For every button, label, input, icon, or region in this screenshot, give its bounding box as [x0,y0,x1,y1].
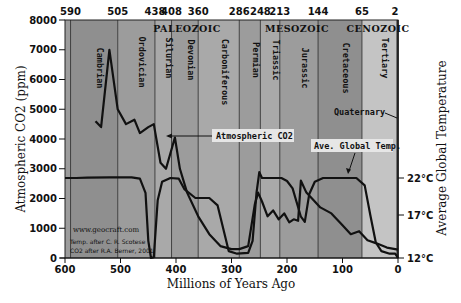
y-tick-label: 3000 [29,163,57,174]
y-tick-label: 1000 [29,223,57,234]
y-tick-label: 5000 [29,104,57,115]
y-axis-temperature: 12°C17°C22°C [398,20,433,264]
y2-tick-label: 22°C [407,173,433,184]
era-label-paleozoic: PALEOZOIC [153,23,221,34]
y2-tick-label: 17°C [407,210,433,221]
x-tick-label: 0 [395,264,402,275]
period-label-triassic: Triassic [271,40,281,81]
top-tick-label: 286 [229,6,250,17]
credit-co2-source: CO2 after R.A. Berner, 2001 [70,247,154,254]
y-tick-label: 6000 [29,74,57,85]
y-tick-label: 7000 [29,44,57,55]
quaternary-label: Quaternary [334,107,385,117]
period-label-cretaceous: Cretaceous [341,42,351,93]
co2-callout-text: Atmospheric CO2 [216,131,293,141]
x-tick-label: 200 [277,264,298,275]
y2-tick-label: 12°C [407,253,433,264]
period-label-ordovician: Ordovician [137,36,147,87]
top-tick-label: 248 [250,6,271,17]
top-tick-label: 408 [161,6,182,17]
y2-axis-title: Average Global Temperature [435,60,449,236]
era-label-cenozoic: CENOZOIC [347,23,410,34]
temperature-callout-text: Ave. Global Temp. [314,141,401,151]
y-axis-co2: 010002000300040005000600070008000 [29,15,65,264]
credit-website: www.geocraft.com [73,226,139,234]
band-ordovician [118,20,155,258]
x-tick-label: 100 [332,264,353,275]
period-label-carboniferous: Carboniferous [220,39,230,106]
y-tick-label: 4000 [29,134,57,145]
x-axis: 6005004003002001000 [55,258,402,275]
x-tick-label: 400 [166,264,187,275]
period-label-silurian: Silurian [164,38,174,79]
top-tick-label: 144 [308,6,329,17]
y-tick-label: 8000 [29,15,57,26]
x-axis-title: Millions of Years Ago [167,277,295,291]
top-tick-label: 213 [269,6,290,17]
period-label-cambrian: Cambrian [95,48,105,89]
x-tick-label: 300 [221,264,242,275]
top-tick-label: 65 [355,6,369,17]
top-tick-label: 505 [107,6,128,17]
y-tick-label: 0 [50,253,57,264]
y-axis-title: Atmospheric CO2 (ppm) [14,65,28,213]
era-labels: PALEOZOICMESOZOICCENOZOIC [153,23,409,34]
co2-temperature-chart: CambrianOrdovicianSilurianDevonianCarbon… [0,0,461,303]
x-tick-label: 600 [55,264,76,275]
y-tick-label: 2000 [29,193,57,204]
top-tick-label: 360 [188,6,209,17]
period-label-jurassic: Jurassic [300,48,310,89]
x-tick-label: 500 [110,264,131,275]
top-tick-label: 590 [60,6,81,17]
period-label-permian: Permian [251,42,261,78]
era-label-mesozoic: MESOZOIC [265,23,329,34]
top-tick-label: 2 [392,6,399,17]
period-label-devonian: Devonian [186,40,196,81]
top-axis-period-boundaries: 590505438408360286248213144652 [60,6,398,17]
credit-temperature-source: Temp. after C. R. Scotese [69,238,146,246]
period-label-tertiary: Tertiary [380,38,390,79]
